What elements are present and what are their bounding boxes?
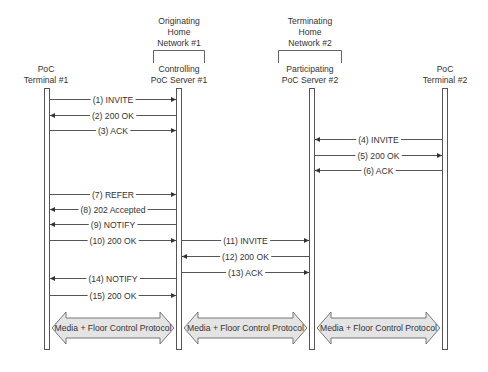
- message-label: (1) INVITE: [93, 95, 134, 105]
- message-arrow: (6) ACK: [315, 166, 442, 176]
- message-label: (7) REFER: [92, 190, 134, 200]
- media-flow-label: Media + Floor Control Protocol: [55, 323, 172, 333]
- media-flow-arrow: Media + Floor Control Protocol: [317, 312, 440, 344]
- message-label: (15) 200 OK: [90, 291, 137, 301]
- message-arrow: (9) NOTIFY: [50, 220, 176, 230]
- lifeline-participating-server-2: [310, 89, 315, 350]
- lifeline-terminal-1: [45, 89, 50, 350]
- message-arrow: (15) 200 OK: [50, 291, 176, 301]
- lifeline-terminal-2: [443, 89, 448, 350]
- group-bracket-originating: [154, 51, 205, 64]
- sequence-diagram: (1) INVITE(2) 200 OK(3) ACK(4) INVITE(5)…: [0, 0, 488, 372]
- message-arrows: (1) INVITE(2) 200 OK(3) ACK(4) INVITE(5)…: [50, 95, 442, 301]
- message-label: (6) ACK: [363, 166, 393, 176]
- message-arrow: (8) 202 Accepted: [50, 205, 176, 215]
- message-label: (8) 202 Accepted: [81, 205, 146, 215]
- message-label: (5) 200 OK: [357, 151, 399, 161]
- lifeline-controlling-server-1: [177, 89, 182, 350]
- message-arrow: (13) ACK: [182, 268, 309, 278]
- message-arrow: (11) INVITE: [182, 236, 309, 246]
- message-label: (2) 200 OK: [92, 111, 134, 121]
- message-arrow: (3) ACK: [50, 126, 176, 136]
- media-flow-label: Media + Floor Control Protocol: [187, 323, 304, 333]
- message-label: (13) ACK: [228, 268, 263, 278]
- message-arrow: (5) 200 OK: [315, 151, 442, 161]
- message-arrow: (14) NOTIFY: [50, 274, 176, 284]
- message-label: (11) INVITE: [223, 236, 268, 246]
- message-label: (3) ACK: [98, 126, 128, 136]
- message-arrow: (4) INVITE: [315, 135, 442, 145]
- message-label: (4) INVITE: [358, 135, 399, 145]
- message-label: (12) 200 OK: [222, 252, 269, 262]
- message-label: (14) NOTIFY: [88, 274, 137, 284]
- message-arrow: (2) 200 OK: [50, 111, 176, 121]
- message-arrow: (1) INVITE: [50, 95, 176, 105]
- message-arrow: (10) 200 OK: [50, 236, 176, 246]
- media-flows: Media + Floor Control ProtocolMedia + Fl…: [52, 312, 440, 344]
- message-label: (10) 200 OK: [90, 236, 137, 246]
- media-flow-arrow: Media + Floor Control Protocol: [52, 312, 174, 344]
- message-arrow: (7) REFER: [50, 190, 176, 200]
- media-flow-label: Media + Floor Control Protocol: [320, 323, 437, 333]
- message-arrow: (12) 200 OK: [182, 252, 309, 262]
- group-bracket-terminating: [279, 51, 342, 64]
- message-label: (9) NOTIFY: [91, 220, 136, 230]
- media-flow-arrow: Media + Floor Control Protocol: [184, 312, 307, 344]
